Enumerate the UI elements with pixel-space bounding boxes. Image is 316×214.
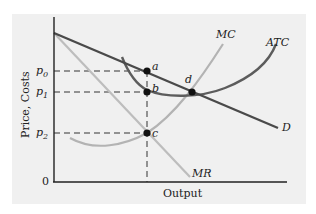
origin-label: 0 (42, 175, 49, 188)
tick-p0: p0 (36, 64, 48, 79)
label-mr: MR (191, 167, 212, 180)
atc-curve-left (122, 57, 147, 90)
label-c: c (152, 127, 158, 140)
point-d (188, 88, 195, 95)
y-axis-title: Price, Costs (19, 71, 32, 138)
label-mc: MC (215, 28, 236, 41)
point-c (143, 129, 150, 136)
tick-p2: p2 (36, 126, 48, 141)
atc-curve (147, 44, 276, 96)
point-a (143, 67, 150, 74)
mr-curve (54, 33, 190, 177)
monopoly-diagram: a b c d D MR MC ATC p0 p1 p2 0 Price, Co… (0, 0, 316, 214)
label-atc: ATC (265, 36, 290, 49)
x-axis-title: Output (163, 187, 203, 200)
label-a: a (152, 60, 159, 73)
label-d: d (185, 73, 192, 86)
dashed-guides (54, 71, 147, 182)
point-b (143, 88, 150, 95)
label-demand: D (281, 121, 291, 134)
demand-curve (54, 33, 278, 128)
label-b: b (152, 82, 159, 95)
tick-p1: p1 (36, 85, 48, 100)
